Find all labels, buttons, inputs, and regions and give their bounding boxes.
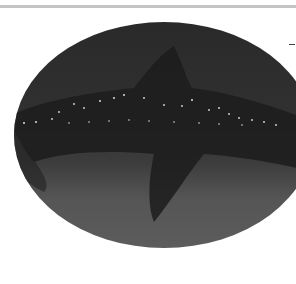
photo-oval bbox=[14, 22, 296, 248]
whale-shark-image bbox=[14, 22, 296, 248]
top-divider bbox=[0, 5, 296, 8]
edge-mark bbox=[289, 44, 295, 45]
